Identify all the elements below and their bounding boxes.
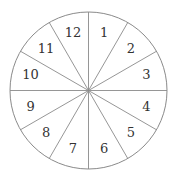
sector-label-8: 8 bbox=[42, 125, 50, 140]
sector-label-10: 10 bbox=[22, 67, 39, 82]
sector-label-9: 9 bbox=[26, 99, 34, 114]
sector-label-11: 11 bbox=[38, 41, 55, 56]
sector-label-3: 3 bbox=[142, 67, 150, 82]
sector-label-5: 5 bbox=[127, 125, 135, 140]
sector-label-2: 2 bbox=[127, 41, 135, 56]
sector-label-1: 1 bbox=[100, 25, 108, 40]
sector-label-6: 6 bbox=[100, 141, 108, 156]
sector-label-12: 12 bbox=[65, 25, 82, 40]
spinner-wheel: 123456789101112 bbox=[0, 0, 175, 182]
sector-label-7: 7 bbox=[69, 141, 77, 156]
sector-label-4: 4 bbox=[142, 99, 150, 114]
